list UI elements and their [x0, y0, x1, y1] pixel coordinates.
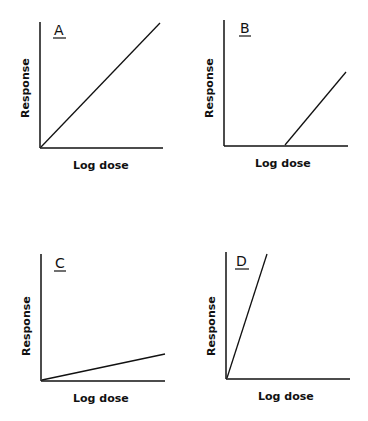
panel-b: B Log dose Response — [203, 20, 348, 170]
panel-a: A Log dose Response — [19, 22, 163, 172]
x-axis-label: Log dose — [255, 157, 311, 170]
panel-label: D — [236, 253, 247, 269]
dose-response-figure: A Log dose Response B Log dose Response … — [0, 0, 368, 421]
y-axis-label: Response — [20, 296, 33, 356]
y-axis-label: Response — [205, 296, 218, 356]
panel-label: C — [55, 255, 65, 271]
response-line — [42, 354, 165, 380]
y-axis-label: Response — [203, 58, 216, 118]
response-line — [227, 254, 267, 378]
panel-d: D Log dose Response — [205, 252, 350, 403]
y-axis-label: Response — [19, 58, 32, 118]
response-line — [285, 72, 346, 145]
panel-c: C Log dose Response — [20, 254, 165, 405]
response-line — [41, 23, 160, 147]
x-axis-label: Log dose — [73, 159, 129, 172]
panel-label: A — [54, 22, 64, 38]
x-axis-label: Log dose — [258, 390, 314, 403]
panel-label: B — [240, 20, 250, 36]
x-axis-label: Log dose — [73, 392, 129, 405]
